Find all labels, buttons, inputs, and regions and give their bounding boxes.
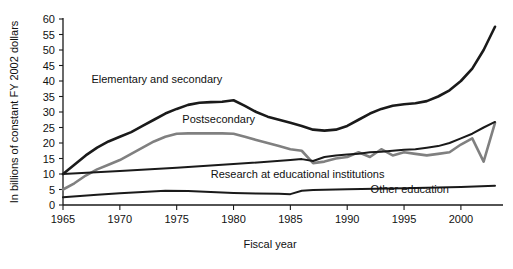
x-axis-tick-group: 19651970197519801985199019952000 (51, 205, 473, 225)
y-tick-label: 30 (43, 106, 55, 118)
x-tick-label: 1965 (51, 213, 75, 225)
x-tick-label: 2000 (449, 213, 473, 225)
x-axis-title: Fiscal year (243, 238, 297, 250)
y-tick-label: 10 (43, 168, 55, 180)
series-line (63, 122, 495, 174)
series-label: Research at educational institutions (211, 168, 385, 180)
y-axis-tick-group: 051015202530354045505560 (43, 13, 63, 211)
series-label: Elementary and secondary (91, 73, 222, 85)
y-tick-label: 55 (43, 29, 55, 41)
y-axis-title: In billions of constant FY 2002 dollars (8, 20, 20, 203)
series-line (63, 27, 495, 174)
y-tick-label: 45 (43, 60, 55, 72)
y-tick-label: 50 (43, 44, 55, 56)
chart-container: 051015202530354045505560 196519701975198… (0, 0, 513, 269)
y-tick-label: 60 (43, 13, 55, 25)
y-tick-label: 40 (43, 75, 55, 87)
x-tick-label: 1995 (392, 213, 416, 225)
series-label: Other education (371, 183, 449, 195)
series-label: Postsecondary (182, 113, 255, 125)
y-tick-label: 35 (43, 91, 55, 103)
line-chart: 051015202530354045505560 196519701975198… (0, 0, 513, 269)
series-label-group: Elementary and secondaryPostsecondaryRes… (91, 73, 448, 195)
y-tick-label: 0 (49, 199, 55, 211)
y-tick-label: 5 (49, 184, 55, 196)
x-tick-label: 1975 (164, 213, 188, 225)
x-tick-label: 1980 (221, 213, 245, 225)
x-tick-label: 1970 (108, 213, 132, 225)
x-tick-label: 1990 (335, 213, 359, 225)
y-tick-label: 20 (43, 137, 55, 149)
y-tick-label: 25 (43, 122, 55, 134)
y-tick-label: 15 (43, 153, 55, 165)
x-tick-label: 1985 (278, 213, 302, 225)
